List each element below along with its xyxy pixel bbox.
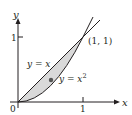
origin-label: 0 [10, 104, 16, 114]
x-tick-label: 1 [80, 104, 86, 114]
equals-sign: = [32, 59, 45, 69]
y-axis-label: y [12, 9, 19, 20]
equals-sign: = [64, 74, 77, 84]
label-y-equals-x-squared: y = x2 [58, 72, 87, 84]
centroid-dot [49, 78, 53, 82]
label-y-equals-x: y = x [26, 59, 50, 69]
intersection-label: (1, 1) [88, 36, 112, 46]
exponent: 2 [82, 72, 86, 80]
y-tick-label: 1 [11, 33, 17, 43]
x-axis-arrow-icon [114, 100, 120, 105]
x-axis-label: x [122, 97, 128, 108]
region-between-curves-diagram: y x 0 1 1 (1, 1) y = x y = x2 [0, 0, 132, 115]
